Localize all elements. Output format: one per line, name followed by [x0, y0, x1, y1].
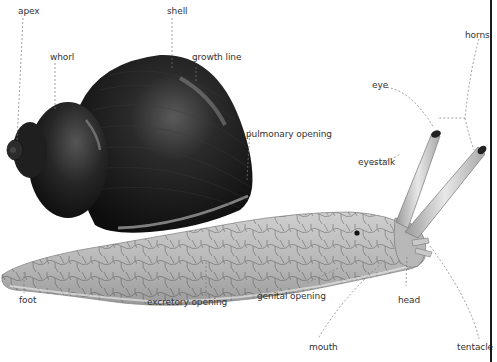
snail-body: [2, 212, 425, 305]
snail-diagram: apex shell whorl growth line pulmonary o…: [0, 0, 497, 362]
label-shell: shell: [167, 6, 187, 16]
genital-opening-dot: [354, 230, 359, 235]
label-whorl: whorl: [50, 52, 74, 62]
snail-illustration: [0, 0, 497, 362]
label-excretory-opening: excretory opening: [147, 297, 227, 307]
label-genital-opening: genital opening: [257, 291, 326, 301]
frame-border: [490, 0, 492, 362]
label-eye: eye: [372, 80, 388, 90]
label-apex: apex: [18, 6, 40, 16]
label-pulmonary-opening: pulmonary opening: [246, 129, 332, 139]
label-growth-line: growth line: [192, 52, 241, 62]
label-head: head: [398, 295, 420, 305]
label-horns: horns: [465, 30, 490, 40]
snail-shell: [7, 55, 253, 233]
eyestalks: [396, 129, 488, 238]
label-eyestalk: eyestalk: [358, 157, 395, 167]
label-foot: foot: [19, 295, 36, 305]
label-tentacle: tentacle: [457, 342, 493, 352]
label-mouth: mouth: [309, 342, 338, 352]
